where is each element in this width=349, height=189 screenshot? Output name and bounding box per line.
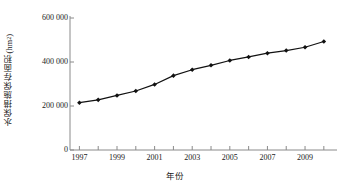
x-tick-label: 2005 [222,154,238,162]
chart-container: 水保措施保存面积(hm2) 0 200 000 400 000 600 000 … [0,0,349,189]
x-tick-label: 1999 [109,154,125,162]
x-axis-tick-labels: 1997199920012003200520072009 [0,0,349,189]
x-tick-label: 2007 [259,154,275,162]
x-tick-label: 2009 [297,154,313,162]
x-tick-label: 2001 [147,154,163,162]
x-tick-label: 1997 [71,154,87,162]
x-axis-title: 年份 [0,172,349,181]
x-tick-label: 2003 [184,154,200,162]
